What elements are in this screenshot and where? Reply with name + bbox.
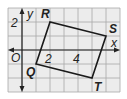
x-tick-label-4: 4 bbox=[73, 52, 80, 66]
x-axis-label: x bbox=[110, 36, 118, 50]
coordinate-plane-svg: y x O 2 2 4 R S Q T bbox=[0, 0, 127, 99]
origin-label: O bbox=[11, 51, 20, 65]
coordinate-plane-figure: y x O 2 2 4 R S Q T bbox=[0, 0, 127, 99]
vertex-label-Q: Q bbox=[26, 65, 36, 79]
vertex-label-R: R bbox=[41, 7, 50, 21]
y-tick-label-2: 2 bbox=[10, 16, 18, 30]
vertex-label-S: S bbox=[109, 22, 117, 36]
x-tick-label-2: 2 bbox=[44, 52, 52, 66]
y-axis-label: y bbox=[26, 7, 34, 21]
